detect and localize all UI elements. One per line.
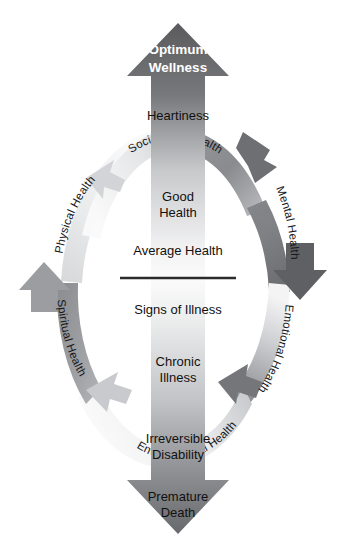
label-optimum-wellness-line2: Wellness — [149, 60, 207, 75]
label-signs-of-illness: Signs of Illness — [134, 302, 222, 317]
label-good-health-line2: Health — [159, 205, 197, 220]
diagram-canvas: Social Health Mental Health Emotional He… — [0, 0, 347, 555]
wellness-continuum-diagram: Social Health Mental Health Emotional He… — [0, 0, 347, 555]
label-chronic-illness-line1: Chronic — [156, 354, 201, 369]
label-irreversible-disability-line2: Disability — [152, 447, 205, 462]
label-chronic-illness-line2: Illness — [160, 370, 197, 385]
label-premature-death-line2: Death — [161, 505, 196, 520]
label-premature-death-line1: Premature — [148, 489, 209, 504]
label-optimum-wellness-line1: Optimum — [148, 42, 207, 57]
label-average-health: Average Health — [133, 243, 222, 258]
label-irreversible-disability-line1: Irreversible — [146, 431, 210, 446]
label-good-health-line1: Good — [162, 189, 194, 204]
label-heartiness: Heartiness — [147, 108, 210, 123]
